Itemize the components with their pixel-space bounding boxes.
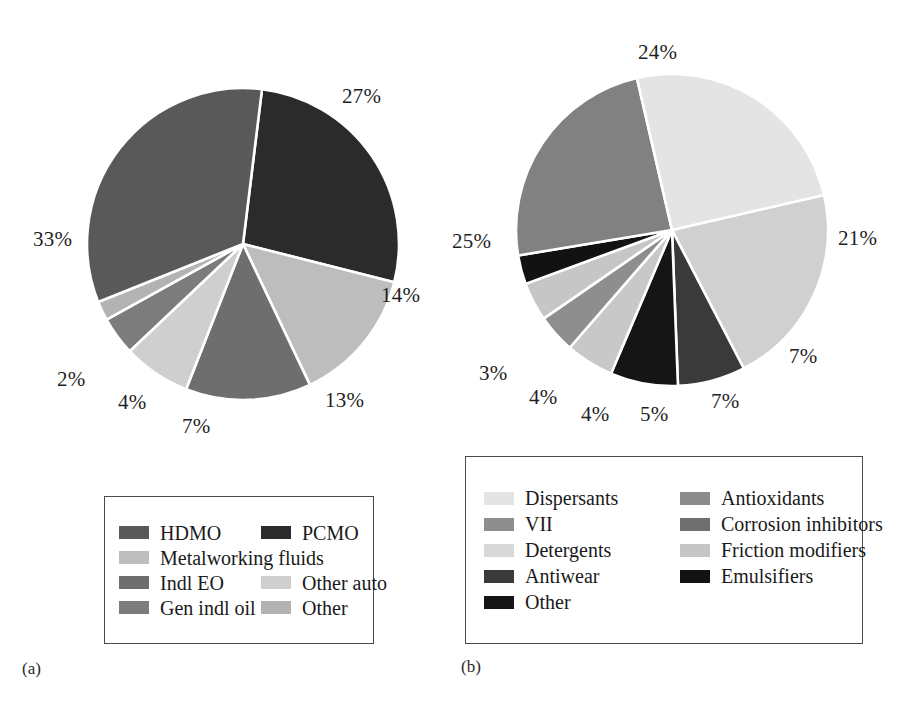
pie-b-label-7a: 7% [789,346,817,367]
pie-b-label-7b: 7% [711,391,739,412]
legend-b: Dispersants Antioxidants VII Corrosion i… [465,456,863,644]
pie-b-svg: Detergents 21%Antioxidants 7%Other 7%Fri… [512,70,832,390]
legend-b-swatch-antiwear [484,570,514,583]
legend-b-label-antiwear: Antiwear [525,566,599,586]
chart-panel-b: Detergents 21%Antioxidants 7%Other 7%Fri… [450,0,913,716]
pie-a-label-2: 2% [57,369,85,390]
legend-a-item-other[interactable]: Other [261,598,387,618]
pie-b-label-5: 5% [640,404,668,425]
pie-b-label-21: 21% [838,228,877,249]
pie-b-label-3: 3% [479,363,507,384]
legend-a-swatch-pcmo [261,526,291,539]
legend-a: HDMO PCMO Metalworking fluids Indl EO Ot… [104,496,374,644]
pie-a-label-4: 4% [118,392,146,413]
legend-a-label-hdmo: HDMO [160,523,221,543]
legend-b-item-emulsifiers[interactable]: Emulsifiers [680,566,883,586]
legend-b-item-other[interactable]: Other [484,592,680,612]
pie-b-label-25: 25% [452,231,491,252]
legend-a-swatch-other [261,601,291,614]
legend-b-swatch-corrosion-inhibitors [680,518,710,531]
legend-b-swatch-antioxidants [680,492,710,505]
legend-b-label-vii: VII [525,514,553,534]
legend-b-swatch-other [484,596,514,609]
legend-b-label-antioxidants: Antioxidants [721,488,824,508]
legend-b-swatch-emulsifiers [680,570,710,583]
legend-b-label-friction-modifiers: Friction modifiers [721,540,866,560]
legend-b-label-other: Other [525,592,571,612]
legend-b-item-antiwear[interactable]: Antiwear [484,566,680,586]
legend-a-swatch-hdmo [119,526,149,539]
legend-b-label-dispersants: Dispersants [525,488,618,508]
legend-b-swatch-vii [484,518,514,531]
pie-a-label-27: 27% [342,86,381,107]
pie-b-label-4a: 4% [581,404,609,425]
legend-a-swatch-metalworking-fluids [119,551,149,564]
legend-a-item-metalworking-fluids[interactable]: Metalworking fluids [119,548,387,568]
legend-a-label-other-auto: Other auto [302,573,387,593]
pie-a-label-33: 33% [33,229,72,250]
chart-panel-a: PCMO 27%Metalworking fluids 14%Indl EO 1… [0,0,450,716]
legend-a-item-other-auto[interactable]: Other auto [261,573,387,593]
pie-b-label-24: 24% [638,42,677,63]
legend-b-label-emulsifiers: Emulsifiers [721,566,813,586]
legend-b-swatch-detergents [484,544,514,557]
pie-chart-b: Detergents 21%Antioxidants 7%Other 7%Fri… [512,70,832,390]
legend-b-item-corrosion-inhibitors[interactable]: Corrosion inhibitors [680,514,883,534]
legend-b-label-corrosion-inhibitors: Corrosion inhibitors [721,514,883,534]
pie-chart-a: PCMO 27%Metalworking fluids 14%Indl EO 1… [83,84,403,404]
legend-a-label-indl-eo: Indl EO [160,573,224,593]
legend-b-item-vii[interactable]: VII [484,514,680,534]
legend-a-item-gen-indl-oil[interactable]: Gen indl oil [119,598,261,618]
pie-b-label-4b: 4% [529,387,557,408]
legend-b-item-antioxidants[interactable]: Antioxidants [680,488,883,508]
pie-a-label-13: 13% [325,390,364,411]
legend-a-label-other: Other [302,598,348,618]
legend-b-item-dispersants[interactable]: Dispersants [484,488,680,508]
caption-a: (a) [22,659,41,679]
legend-a-swatch-gen-indl-oil [119,601,149,614]
legend-b-swatch-friction-modifiers [680,544,710,557]
figure-root: PCMO 27%Metalworking fluids 14%Indl EO 1… [0,0,913,716]
pie-a-svg: PCMO 27%Metalworking fluids 14%Indl EO 1… [83,84,403,404]
legend-a-item-pcmo[interactable]: PCMO [261,523,387,543]
legend-b-item-friction-modifiers[interactable]: Friction modifiers [680,540,883,560]
legend-a-swatch-indl-eo [119,576,149,589]
legend-a-label-gen-indl-oil: Gen indl oil [160,598,256,618]
caption-b: (b) [461,657,481,677]
legend-a-swatch-other-auto [261,576,291,589]
legend-a-label-pcmo: PCMO [302,523,359,543]
legend-b-swatch-dispersants [484,492,514,505]
pie-a-label-7: 7% [182,416,210,437]
legend-b-item-detergents[interactable]: Detergents [484,540,680,560]
legend-a-item-hdmo[interactable]: HDMO [119,523,261,543]
legend-a-item-indl-eo[interactable]: Indl EO [119,573,261,593]
pie-a-label-14: 14% [381,285,420,306]
legend-b-label-detergents: Detergents [525,540,611,560]
legend-a-label-metalworking-fluids: Metalworking fluids [160,548,324,568]
